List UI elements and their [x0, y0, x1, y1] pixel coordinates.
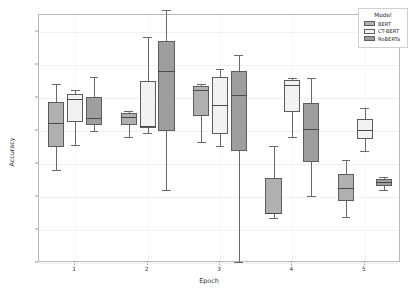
whisker-cap-upper [379, 177, 388, 178]
whisker-cap-lower [360, 151, 369, 152]
whisker-cap-lower [197, 142, 206, 143]
grid-line [39, 263, 399, 264]
whisker-cap-upper [216, 69, 225, 70]
box-plot-figure: Accuracy Epoch 78.078.579.079.580.080.58… [0, 0, 418, 303]
whisker-cap-upper [143, 37, 152, 38]
whisker-cap-lower [90, 131, 99, 132]
whisker-cap-upper [90, 77, 99, 78]
whisker-cap-lower [288, 137, 297, 138]
box-plot-series-layer [39, 15, 399, 261]
legend-label: CT-BERT [378, 28, 399, 34]
x-tick-label: 1 [54, 267, 94, 273]
whisker-cap-lower [307, 196, 316, 197]
x-tick-label: 5 [344, 267, 384, 273]
legend-item-bert: BERT [364, 21, 402, 27]
plot-area [38, 14, 400, 262]
whisker-cap-upper [288, 78, 297, 79]
whisker-cap-lower [143, 133, 152, 134]
box-iqr [158, 41, 174, 132]
median-line [231, 95, 247, 96]
whisker-cap-lower [234, 262, 243, 263]
whisker-cap-lower [162, 190, 171, 191]
box-iqr [338, 174, 354, 201]
legend-item-ct-bert: CT-BERT [364, 28, 402, 34]
whisker-cap-upper [162, 10, 171, 11]
whisker-cap-upper [124, 111, 133, 112]
whisker-cap-lower [342, 217, 351, 218]
whisker-cap-upper [307, 78, 316, 79]
whisker-cap-upper [52, 84, 61, 85]
box-iqr [265, 178, 281, 214]
box-iqr [231, 71, 247, 150]
median-line [265, 213, 281, 214]
median-line [193, 90, 209, 91]
box-iqr [193, 86, 209, 116]
whisker-cap-upper [71, 90, 80, 91]
legend-label: RoBERTa [378, 36, 400, 42]
box-iqr [121, 113, 137, 126]
whisker-cap-lower [216, 146, 225, 147]
x-axis-label: Epoch [0, 277, 418, 285]
legend-item-roberta: RoBERTa [364, 36, 402, 42]
y-axis-label: Accuracy [8, 107, 16, 197]
legend-swatch-icon [364, 21, 375, 26]
median-line [284, 85, 300, 86]
whisker-cap-lower [269, 218, 278, 219]
box-iqr [303, 103, 319, 162]
box-iqr [86, 97, 102, 125]
whisker-cap-upper [269, 146, 278, 147]
legend-swatch-icon [364, 29, 375, 34]
box-iqr [140, 81, 156, 128]
whisker-cap-upper [234, 55, 243, 56]
whisker-cap-lower [379, 190, 388, 191]
legend-swatch-icon [364, 36, 375, 41]
median-line [357, 130, 373, 131]
x-tick-label: 4 [271, 267, 311, 273]
x-tick-label: 2 [127, 267, 167, 273]
legend-entries: BERTCT-BERTRoBERTa [364, 21, 402, 42]
median-line [303, 129, 319, 130]
median-line [121, 117, 137, 118]
whisker-cap-upper [360, 108, 369, 109]
whisker-cap-lower [124, 137, 133, 138]
box-iqr [67, 94, 83, 122]
median-line [140, 126, 156, 127]
median-line [338, 188, 354, 189]
median-line [48, 123, 64, 124]
median-line [376, 182, 392, 183]
median-line [67, 99, 83, 100]
legend: Model BERTCT-BERTRoBERTa [358, 8, 408, 48]
legend-title: Model [364, 12, 402, 18]
median-line [86, 118, 102, 119]
whisker-cap-upper [197, 84, 206, 85]
whisker-cap-lower [52, 170, 61, 171]
median-line [158, 71, 174, 72]
whisker-cap-lower [71, 145, 80, 146]
x-tick-label: 3 [199, 267, 239, 273]
legend-label: BERT [378, 21, 391, 27]
whisker-cap-upper [342, 160, 351, 161]
median-line [212, 105, 228, 106]
